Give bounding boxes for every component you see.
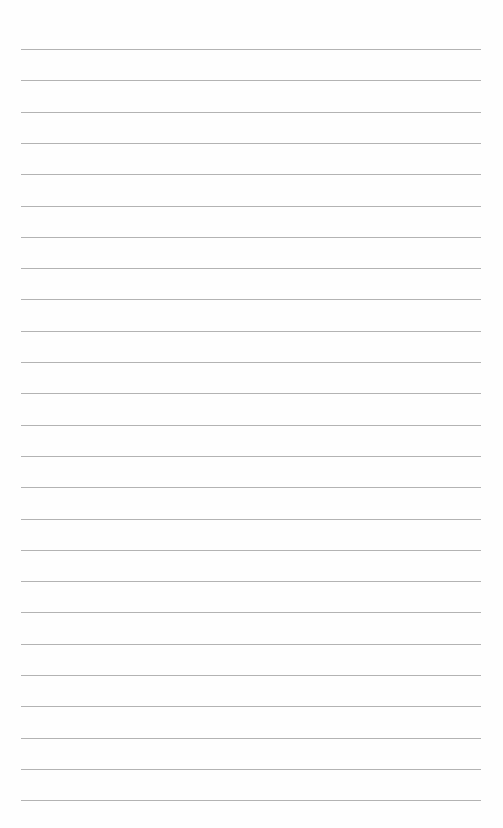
ruled-line: [21, 299, 481, 300]
ruled-line: [21, 237, 481, 238]
lined-paper-sheet: [0, 0, 503, 828]
ruled-line: [21, 362, 481, 363]
ruled-line: [21, 456, 481, 457]
ruled-line: [21, 112, 481, 113]
ruled-line: [21, 206, 481, 207]
ruled-line: [21, 706, 481, 707]
ruled-line: [21, 769, 481, 770]
ruled-line: [21, 80, 481, 81]
ruled-line: [21, 49, 481, 50]
ruled-line: [21, 425, 481, 426]
ruled-line: [21, 487, 481, 488]
ruled-line: [21, 268, 481, 269]
ruled-line: [21, 519, 481, 520]
ruled-line: [21, 581, 481, 582]
ruled-line: [21, 143, 481, 144]
ruled-line: [21, 174, 481, 175]
ruled-line: [21, 393, 481, 394]
ruled-line: [21, 675, 481, 676]
ruled-line: [21, 612, 481, 613]
ruled-line: [21, 644, 481, 645]
ruled-line: [21, 738, 481, 739]
ruled-line: [21, 800, 481, 801]
ruled-line: [21, 331, 481, 332]
ruled-line: [21, 550, 481, 551]
